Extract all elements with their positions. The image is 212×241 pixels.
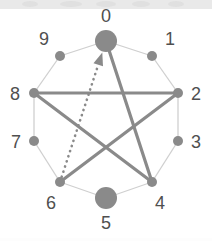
- node-label-3: 3: [191, 132, 201, 152]
- graph-node-5[interactable]: [95, 187, 117, 209]
- ring-edge-6-7: [34, 141, 60, 182]
- graph-node-1[interactable]: [147, 51, 157, 61]
- arrow-head-icon: [93, 52, 103, 66]
- node-label-1: 1: [165, 29, 175, 49]
- node-label-5: 5: [101, 213, 111, 233]
- graph-node-3[interactable]: [173, 136, 183, 146]
- node-label-6: 6: [46, 193, 56, 213]
- node-label-9: 9: [39, 29, 49, 49]
- graph-node-9[interactable]: [55, 51, 65, 61]
- node-label-2: 2: [191, 84, 201, 104]
- node-label-0: 0: [101, 6, 111, 26]
- node-layer: [29, 30, 183, 209]
- node-label-7: 7: [11, 132, 21, 152]
- graph-node-8[interactable]: [29, 88, 39, 98]
- ring-edge-8-9: [34, 56, 60, 93]
- chord-edge-0-4: [106, 41, 152, 182]
- dotted-edge-6-0: [60, 65, 98, 182]
- graph-node-4[interactable]: [147, 177, 157, 187]
- graph-node-7[interactable]: [29, 136, 39, 146]
- ring-edge-1-2: [152, 56, 178, 93]
- ring-edge-layer: [34, 41, 178, 198]
- node-label-8: 8: [10, 84, 20, 104]
- graph-node-2[interactable]: [173, 88, 183, 98]
- graph-node-6[interactable]: [55, 177, 65, 187]
- diagram-canvas: 0123456789: [0, 0, 212, 241]
- ring-edge-3-4: [152, 141, 178, 182]
- graph-node-0[interactable]: [95, 30, 117, 52]
- node-label-4: 4: [155, 193, 165, 213]
- circular-graph: 0123456789: [0, 0, 212, 241]
